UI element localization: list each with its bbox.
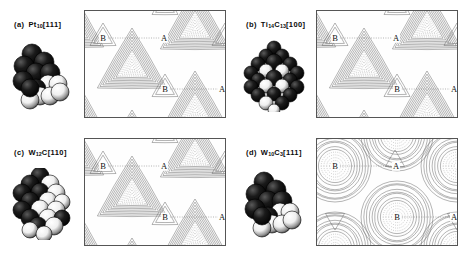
- contour-line: [163, 74, 225, 117]
- contour-line: [163, 11, 225, 48]
- contour-line: [411, 11, 443, 39]
- contour-line: [424, 108, 429, 113]
- panel-a: (a)Pt10[111]BABA: [0, 0, 232, 128]
- contour-line: [179, 139, 211, 167]
- contour-line: [449, 240, 457, 245]
- atom-sphere: [36, 226, 52, 240]
- contour-line: [432, 141, 457, 191]
- contour-line: [440, 231, 457, 245]
- caption-tag: (c): [14, 148, 24, 157]
- panel-d: (d)W10C3[111]BABA: [232, 128, 464, 257]
- contour-line: [454, 163, 457, 170]
- contour-line: [348, 50, 380, 78]
- caption-formula: W10C3[111]: [261, 148, 302, 157]
- contour-line: [190, 233, 201, 242]
- contour-line: [103, 116, 162, 117]
- contour-line: [105, 165, 158, 212]
- contour-line: [395, 11, 457, 48]
- contour-group: [317, 11, 457, 117]
- contour-line: [443, 152, 457, 180]
- contour-line: [85, 84, 90, 117]
- contour-line: [330, 242, 341, 245]
- contour-line: [424, 26, 429, 31]
- atom-sphere: [253, 207, 271, 225]
- site-label-B: B: [161, 213, 169, 222]
- site-label-A: A: [218, 213, 226, 222]
- contour-line: [124, 59, 140, 73]
- site-label-A: A: [160, 34, 168, 43]
- panel-caption: (d)W10C3[111]: [246, 149, 302, 157]
- contour-group: [317, 139, 457, 245]
- site-label-A: A: [450, 85, 458, 94]
- contour-line: [192, 236, 197, 241]
- contour-line: [386, 139, 408, 146]
- contour-line: [103, 244, 162, 245]
- caption-formula: W12C[110]: [28, 148, 66, 157]
- contour-line: [361, 65, 366, 70]
- crystal-orientation: [111]: [283, 148, 302, 157]
- contour-line: [127, 62, 138, 71]
- formula-element-1: Pt: [28, 20, 36, 29]
- contour-line: [324, 237, 346, 245]
- contour-line: [116, 178, 148, 206]
- contour-line: [192, 26, 197, 31]
- caption-formula: Ti14C13[100]: [261, 20, 306, 29]
- contour-line: [452, 242, 458, 245]
- contour-line: [179, 11, 211, 39]
- site-label-B: B: [331, 162, 339, 171]
- atom-sphere: [283, 211, 301, 229]
- atom-sphere: [21, 79, 39, 97]
- site-label-A: A: [392, 162, 400, 171]
- contour-line: [171, 83, 219, 117]
- contour-line: [176, 218, 213, 246]
- contour-line: [408, 11, 445, 40]
- contour-line: [419, 20, 435, 34]
- caption-formula: Pt10[111]: [28, 20, 61, 29]
- contour-line: [380, 139, 413, 152]
- contour-line: [429, 220, 457, 245]
- contour-line: [171, 211, 219, 245]
- contour-line: [156, 11, 175, 13]
- site-label-A: A: [450, 213, 458, 222]
- contour-line: [400, 80, 453, 117]
- contour-line: [422, 23, 433, 32]
- crystal-orientation: [110]: [48, 148, 67, 157]
- contour-line: [422, 105, 433, 114]
- contour-line: [163, 202, 225, 245]
- contour-line: [356, 59, 372, 73]
- contour-line: [317, 84, 322, 117]
- cluster-model: [242, 40, 306, 112]
- contour-line: [335, 116, 394, 117]
- contour-line: [187, 102, 203, 116]
- panel-b: (b)Ti14C13[100]BABA: [232, 0, 464, 128]
- contour-line: [392, 139, 403, 141]
- caption-tag: (d): [246, 148, 257, 157]
- figure-grid: (a)Pt10[111]BABA(b)Ti14C13[100]BABA(c)W1…: [0, 0, 464, 257]
- contour-line: [317, 72, 333, 117]
- site-label-A: A: [392, 34, 400, 43]
- contour-group: [85, 11, 225, 117]
- contour-line: [190, 151, 201, 160]
- contour-plot: BABA: [316, 10, 458, 118]
- panel-caption: (c)W12C[110]: [14, 149, 67, 157]
- contour-line: [129, 65, 134, 70]
- contour-line: [156, 139, 175, 141]
- site-label-A: A: [218, 85, 226, 94]
- contour-line: [187, 20, 203, 34]
- contour-line: [438, 229, 457, 245]
- contour-line: [187, 230, 203, 244]
- contour-line: [321, 234, 349, 245]
- panel-c: (c)W12C[110]BABA: [0, 128, 232, 257]
- contour-line: [327, 240, 344, 245]
- contour-line: [105, 37, 158, 84]
- contour-line: [190, 23, 201, 32]
- contour-line: [388, 11, 407, 13]
- contour-line: [129, 193, 134, 198]
- panel-caption: (a)Pt10[111]: [14, 21, 61, 29]
- site-label-B: B: [161, 85, 169, 94]
- contour-line: [375, 139, 419, 159]
- contour-line: [403, 83, 451, 117]
- contour-line: [440, 149, 457, 182]
- contour-line: [163, 139, 225, 176]
- contour-line: [190, 105, 201, 114]
